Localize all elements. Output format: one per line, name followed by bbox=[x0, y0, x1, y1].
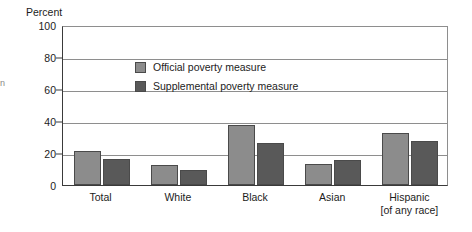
bar-white-supplemental bbox=[180, 170, 207, 185]
gridline-40 bbox=[63, 123, 447, 124]
bar-asian-official bbox=[305, 164, 332, 185]
x-axis-label-total: Total bbox=[90, 191, 112, 204]
bar-white-official bbox=[151, 165, 178, 185]
bar-black-supplemental bbox=[257, 143, 284, 185]
bar-hispanic-official bbox=[382, 133, 409, 185]
y-axis-tick-label-100: 100 bbox=[38, 20, 56, 32]
legend-swatch-supplemental-icon bbox=[135, 81, 146, 92]
bar-black-official bbox=[228, 125, 255, 185]
legend-item-supplemental: Supplemental poverty measure bbox=[135, 78, 298, 94]
x-axis-label-asian: Asian bbox=[319, 191, 345, 204]
legend-swatch-official-icon bbox=[135, 62, 146, 73]
y-axis-tick-label-20: 20 bbox=[44, 148, 56, 160]
plot-area: Official poverty measure Supplemental po… bbox=[62, 26, 448, 186]
y-axis-tick-label-60: 60 bbox=[44, 84, 56, 96]
legend-label-official: Official poverty measure bbox=[153, 61, 266, 73]
x-axis-sublabel-hispanic: [of any race] bbox=[381, 204, 439, 217]
bar-hispanic-supplemental bbox=[411, 141, 438, 185]
chart-legend: Official poverty measure Supplemental po… bbox=[135, 59, 298, 97]
y-axis-title: Percent bbox=[26, 6, 62, 18]
legend-label-supplemental: Supplemental poverty measure bbox=[153, 80, 298, 92]
bar-asian-supplemental bbox=[334, 160, 361, 185]
page-edge-text-fragment: n bbox=[0, 78, 5, 88]
y-axis-tick-label-0: 0 bbox=[50, 180, 56, 192]
legend-item-official: Official poverty measure bbox=[135, 59, 298, 75]
x-axis-label-black: Black bbox=[242, 191, 268, 204]
y-axis-tick-label-40: 40 bbox=[44, 116, 56, 128]
y-axis-tick-label-80: 80 bbox=[44, 52, 56, 64]
x-axis-label-white: White bbox=[164, 191, 191, 204]
poverty-measure-bar-chart: n Percent 020406080100 Official poverty … bbox=[0, 0, 472, 232]
x-axis-label-hispanic: Hispanic[of any race] bbox=[381, 191, 439, 217]
bar-total-official bbox=[74, 151, 101, 185]
bar-total-supplemental bbox=[103, 159, 130, 185]
